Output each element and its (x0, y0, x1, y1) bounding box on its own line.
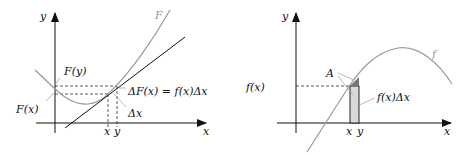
tick-y-right: y (356, 125, 364, 138)
curve-F-label: F (154, 9, 163, 22)
label-area: f(x)Δx (376, 91, 411, 104)
right-x-label: x (444, 125, 451, 138)
left-diagram: y x F F(y) F(x) ΔF(x) = f(x)Δx Δx x y (15, 9, 210, 138)
tangent-line (65, 37, 185, 128)
label-Fy: F(y) (63, 65, 86, 78)
tick-x-right: x (346, 125, 353, 138)
curve-f-label: f (431, 48, 438, 61)
label-A: A (325, 67, 334, 80)
pointer-area (357, 98, 375, 106)
tick-y-left: y (113, 125, 121, 138)
label-dx: Δx (127, 107, 143, 120)
left-x-label: x (203, 125, 210, 138)
pointer-Fx (46, 93, 54, 101)
diagram-canvas: y x F F(y) F(x) ΔF(x) = f(x)Δx Δx x y y … (0, 0, 471, 155)
label-dF: ΔF(x) = f(x)Δx (127, 85, 208, 98)
area-rect (350, 86, 359, 123)
right-y-label: y (281, 10, 289, 23)
pointer-dx (114, 94, 126, 107)
left-y-label: y (39, 10, 47, 23)
right-diagram: y x f f(x) A f(x)Δx x y (245, 10, 452, 152)
label-fx: f(x) (245, 81, 265, 94)
label-Fx: F(x) (15, 103, 38, 116)
tick-x-left: x (104, 125, 111, 138)
